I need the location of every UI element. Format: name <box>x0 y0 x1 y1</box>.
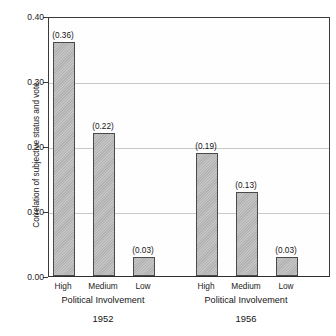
bar-value-label: (0.19) <box>195 142 216 151</box>
x-axis-group-title: Political Involvement <box>62 295 145 305</box>
gridline <box>49 83 329 84</box>
bar-value-label: (0.03) <box>132 246 153 255</box>
y-axis-tick-label: 0.20 <box>0 142 44 152</box>
y-axis-tick-label: 0.40 <box>0 12 44 22</box>
x-axis-group-title: Political Involvement <box>205 295 288 305</box>
x-axis-group-year: 1956 <box>236 313 257 324</box>
x-axis-tick-label: Medium <box>88 281 118 291</box>
bar <box>236 192 258 277</box>
x-axis-tick-label: High <box>54 281 71 291</box>
bar <box>196 153 218 277</box>
gridline <box>49 213 329 214</box>
plot-area <box>48 17 330 277</box>
x-axis-tick-label: Medium <box>231 281 261 291</box>
bar-value-label: (0.13) <box>235 181 256 190</box>
bar-value-label: (0.03) <box>275 246 296 255</box>
gridline <box>49 148 329 149</box>
bar <box>276 257 298 277</box>
x-axis-tick-label: Low <box>278 281 293 291</box>
bar <box>53 42 75 276</box>
y-axis-title: Correlation of subjective status and vot… <box>31 35 41 275</box>
bar-value-label: (0.22) <box>92 122 113 131</box>
x-axis-tick-label: Low <box>135 281 150 291</box>
bar <box>133 257 155 277</box>
y-axis-tick-label: 0.30 <box>0 77 44 87</box>
x-axis-group-year: 1952 <box>93 313 114 324</box>
y-axis-tick-label: 0.10 <box>0 207 44 217</box>
bar-value-label: (0.36) <box>52 31 73 40</box>
bar <box>93 133 115 276</box>
y-axis-tick-label: 0.00 <box>0 272 44 282</box>
x-axis-tick-label: High <box>197 281 214 291</box>
bar-chart-figure: Correlation of subjective status and vot… <box>0 0 336 336</box>
